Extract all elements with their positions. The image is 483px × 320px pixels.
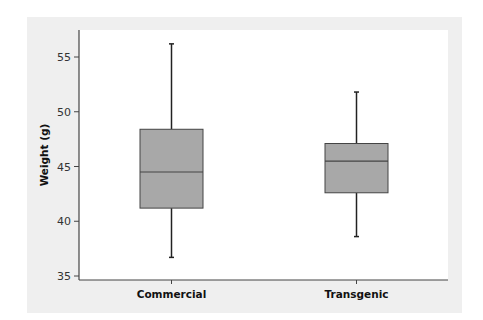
y-tick-label: 40 [57,215,71,228]
x-category-label: Commercial [137,288,207,300]
x-category-label: Transgenic [325,288,389,300]
box-plot: 3540455055Weight (g)CommercialTransgenic [0,0,483,320]
plot-area [79,30,448,280]
y-axis-title: Weight (g) [38,124,50,187]
box-iqr [140,129,203,208]
y-tick-label: 55 [57,51,71,64]
y-tick-label: 45 [57,161,71,174]
box-iqr [325,144,388,193]
y-tick-label: 35 [57,270,71,283]
y-tick-label: 50 [57,106,71,119]
